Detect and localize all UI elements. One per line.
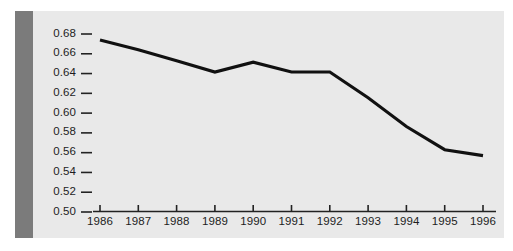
y-tick-label: 0.68 xyxy=(38,27,76,39)
x-axis-ticks xyxy=(100,205,483,211)
x-tick-label: 1986 xyxy=(80,215,120,227)
y-tick-label: 0.64 xyxy=(38,66,76,78)
x-tick-label: 1987 xyxy=(118,215,158,227)
chart-figure: 0.680.660.640.620.600.580.560.540.520.50… xyxy=(0,0,513,251)
y-tick-label: 0.62 xyxy=(38,86,76,98)
y-tick-label: 0.52 xyxy=(38,185,76,197)
plot-svg xyxy=(0,0,513,251)
x-tick-label: 1996 xyxy=(463,215,503,227)
y-tick-label: 0.60 xyxy=(38,106,76,118)
x-tick-label: 1993 xyxy=(348,215,388,227)
y-tick-label: 0.50 xyxy=(38,205,76,217)
y-tick-label: 0.58 xyxy=(38,125,76,137)
x-tick-label: 1992 xyxy=(310,215,350,227)
y-tick-label: 0.66 xyxy=(38,46,76,58)
x-tick-label: 1989 xyxy=(195,215,235,227)
x-tick-label: 1994 xyxy=(386,215,426,227)
y-axis-ticks xyxy=(81,34,92,212)
x-tick-label: 1990 xyxy=(233,215,273,227)
data-series-line xyxy=(100,40,483,156)
y-tick-label: 0.54 xyxy=(38,165,76,177)
x-tick-label: 1995 xyxy=(425,215,465,227)
x-tick-label: 1988 xyxy=(157,215,197,227)
y-tick-label: 0.56 xyxy=(38,145,76,157)
x-tick-label: 1991 xyxy=(272,215,312,227)
